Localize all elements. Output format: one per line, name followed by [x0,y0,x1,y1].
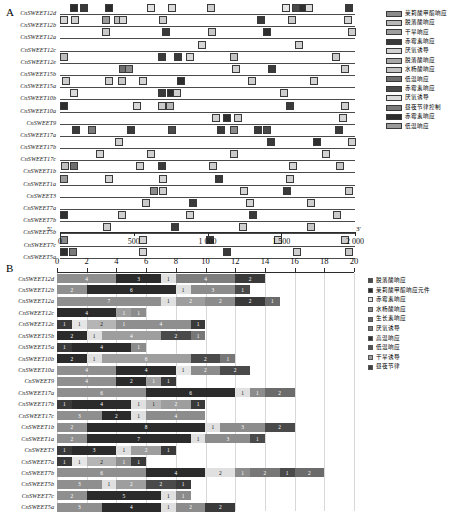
promoter-track [60,99,355,100]
cis-element-marker [60,102,68,110]
cis-element-marker [341,65,349,73]
bar-segment: 2 [116,480,146,489]
cis-element-marker [162,28,170,36]
bar-segment: 1 [57,400,72,409]
cis-element-marker [80,4,88,12]
stacked-bar: 6421212 [57,468,324,477]
panel-b-legend-item: 茉莉酸甲酯响应元件 [368,286,463,296]
legend-label: 赤霉素响应 [405,86,435,92]
panel-a-legend-item: 赤霉素响应 [386,37,463,46]
panel-b-gene-label: CnSWEET17c [0,413,54,419]
panel-b-bar-row: CnSWEET12e112141 [0,319,360,330]
promoter-track [60,209,355,210]
cis-element-marker [217,126,225,134]
bar-segment: 1 [131,343,146,352]
panel-a-legend-item: 厌氧诱导 [386,94,463,103]
legend-color-swatch [386,29,402,35]
panel-b-bar-row: CnSWEET7c2511 [0,490,360,501]
bar-segment: 1 [176,480,191,489]
panel-a-gene-row: CnSWEET9 [0,118,360,130]
cis-element-marker [171,223,179,231]
cis-element-marker [230,126,238,134]
bar-segment: 3 [57,480,102,489]
panel-b-bar-row: CnSWEET15a141 [0,342,360,353]
panel-b-bar-row: CnSWEET17a66112 [0,387,360,398]
cis-element-marker [103,223,111,231]
figure-root: A CnSWEET12dCnSWEET12bCnSWEET12aCnSWEET1… [0,0,463,520]
panel-a-axis: 05001 0001 5002 000 [60,232,355,233]
cis-element-marker [70,162,78,170]
bar-segment: 1 [72,320,87,329]
panel-a-gene-label: CnSWEET9 [0,120,56,126]
cis-element-marker [60,211,68,219]
cis-element-marker [307,223,315,231]
panel-b: B 02468101214161820 CnSWEET12d43142CnSWE… [0,252,463,520]
bar-segment: 4 [57,274,116,283]
panel-b-gene-label: CnSWEET5b [0,481,54,487]
panel-a-legend-item: 厌氧诱导 [386,47,463,56]
legend-label: 水杨酸响应 [405,67,435,73]
bar-segment: 1 [220,354,235,363]
cis-element-marker [230,53,238,61]
bar-segment: 2 [265,388,295,397]
legend-color-swatch [386,67,402,73]
cis-element-marker [186,211,194,219]
stacked-bar: 141 [57,343,146,352]
panel-b-gene-label: CnSWEET10b [0,356,54,362]
cis-element-marker [263,126,271,134]
stacked-bar: 27131 [57,434,265,443]
bar-segment: 2 [205,468,235,477]
promoter-track [60,75,355,76]
promoter-track [60,148,355,149]
panel-a-legend-item: 水杨酸响应 [386,65,463,74]
bar-segment: 4 [72,400,131,409]
bar-segment: 1 [131,308,146,317]
cis-element-marker [341,102,349,110]
legend-label: 水杨酸响应 [376,307,406,313]
panel-b-bar-row: CnSWEET12d43142 [0,273,360,284]
cis-element-marker [158,102,166,110]
cis-element-marker [60,175,68,183]
cis-element-marker [88,126,96,134]
cis-element-marker [118,77,126,85]
bar-segment: 3 [205,434,250,443]
bar-segment: 1 [176,366,191,375]
bar-segment: 2 [57,434,87,443]
panel-a-gene-label: CnSWEET17c [0,156,56,162]
panel-b-legend-item: 脱落酸响应 [368,276,463,286]
cis-element-marker [254,126,262,134]
bar-segment: 1 [235,285,250,294]
bar-segment: 2 [191,354,221,363]
cis-element-marker [159,16,167,24]
cis-element-marker [119,16,127,24]
bar-segment: 3 [220,423,265,432]
axis-tick [57,268,58,272]
stacked-bar: 26131 [57,285,250,294]
promoter-track [60,160,355,161]
stacked-bar: 34122 [57,503,235,512]
panel-b-bar-row: CnSWEET1a27131 [0,433,360,444]
cis-element-marker [198,41,206,49]
cis-element-marker [147,4,155,12]
cis-element-marker [147,150,155,158]
promoter-track [60,51,355,52]
bar-segment: 1 [116,446,131,455]
cis-element-marker [133,102,141,110]
cis-element-marker [310,77,318,85]
panel-b-bar-row: CnSWEET313121 [0,445,360,456]
cis-element-marker [289,162,297,170]
bar-segment: 4 [146,411,205,420]
bar-segment: 4 [102,331,161,340]
bar-segment: 2 [102,411,132,420]
cis-element-marker [257,16,265,24]
bar-segment: 4 [146,468,205,477]
cis-element-marker [159,187,167,195]
axis-tick-label: 2 [85,256,89,266]
panel-b-legend: 脱落酸响应茉莉酸甲酯响应元件赤霉素响应水杨酸响应生长素响应厌氧诱导高温响应低温响… [368,276,463,372]
stacked-bar: 66112 [57,388,295,397]
bar-segment: 1 [116,457,131,466]
cis-element-marker [102,16,110,24]
cis-element-marker [209,162,217,170]
panel-a-legend-item: 茉莉酸甲酯响应 [386,9,463,18]
cis-element-marker [168,4,176,12]
